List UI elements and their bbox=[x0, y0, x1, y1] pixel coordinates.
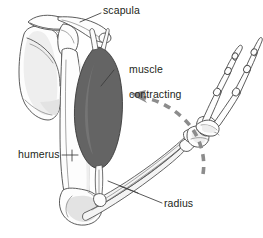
label-muscle-line2: contracting bbox=[129, 88, 181, 100]
label-muscle-contracting: muscle contracting bbox=[117, 50, 182, 113]
muscle-belly bbox=[74, 47, 122, 168]
label-radius: radius bbox=[164, 197, 193, 210]
label-scapula: scapula bbox=[103, 4, 140, 17]
label-humerus: humerus bbox=[18, 148, 60, 161]
anatomy-illustration bbox=[0, 0, 263, 238]
label-muscle-line1: muscle bbox=[129, 63, 163, 75]
hand-bones bbox=[196, 38, 262, 137]
leader-line-scapula bbox=[80, 13, 101, 22]
anatomy-figure: scapula muscle contracting humerus radiu… bbox=[0, 0, 263, 238]
